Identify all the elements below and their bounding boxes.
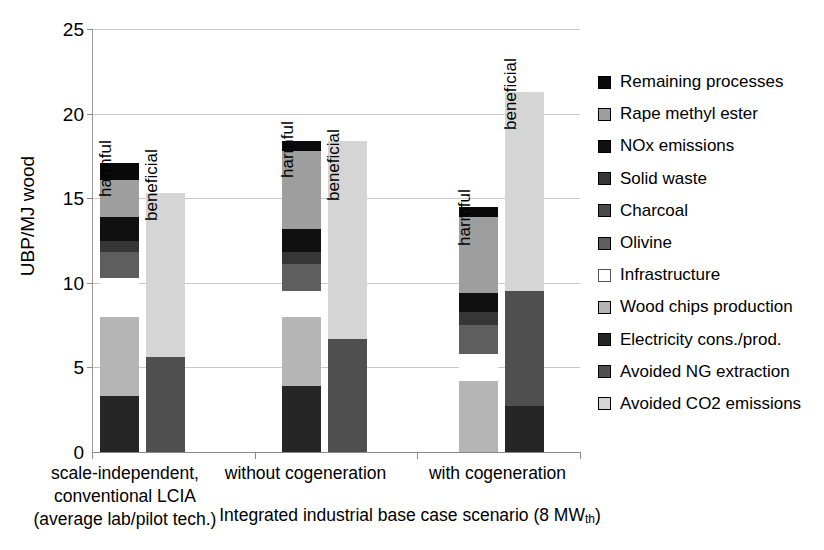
- segment-electricity-cons-prod[interactable]: [505, 406, 544, 452]
- category-label-group3-line1: with cogeneration: [410, 462, 585, 485]
- legend-swatch-icon: [598, 140, 611, 153]
- legend-swatch-icon: [598, 76, 611, 89]
- legend-item-avoided-co2-emissions[interactable]: Avoided CO2 emissions: [598, 388, 824, 420]
- legend-swatch-icon: [598, 397, 611, 410]
- legend-item-remaining-processes[interactable]: Remaining processes: [598, 66, 824, 98]
- legend-label: Olivine: [620, 233, 672, 253]
- legend-label: Charcoal: [620, 201, 688, 221]
- legend-item-infrastructure[interactable]: Infrastructure: [598, 259, 824, 291]
- chart-container: UBP/MJ wood 25 20 15 10 5 0 h: [0, 0, 824, 550]
- legend-swatch-icon: [598, 269, 611, 282]
- x-axis-title-tail: ): [595, 505, 601, 525]
- segment-olivine[interactable]: [100, 252, 139, 277]
- segment-wood-chips-production[interactable]: [100, 317, 139, 397]
- category-label-group1-line3: (average lab/pilot tech.): [20, 508, 230, 531]
- x-axis-title-subscript: th: [585, 512, 595, 526]
- legend-label: Infrastructure: [620, 265, 720, 285]
- bar-group1-harmful[interactable]: [100, 163, 139, 452]
- legend: Remaining processes Rape methyl ester NO…: [598, 66, 824, 420]
- legend-label: NOx emissions: [620, 136, 734, 156]
- legend-swatch-icon: [598, 333, 611, 346]
- gridline-25: [93, 29, 580, 30]
- bar-annotation-group1-harmful: harmful: [96, 140, 116, 197]
- segment-infrastructure[interactable]: [282, 291, 321, 316]
- legend-item-avoided-ng-extraction[interactable]: Avoided NG extraction: [598, 356, 824, 388]
- legend-swatch-icon: [598, 204, 611, 217]
- legend-swatch-icon: [598, 237, 611, 250]
- segment-nox-emissions[interactable]: [100, 217, 139, 241]
- segment-wood-chips-production[interactable]: [282, 317, 321, 386]
- x-axis-line: [92, 452, 580, 453]
- bar-annotation-group3-beneficial: beneficial: [501, 58, 521, 130]
- y-tick-label-25: 25: [38, 20, 84, 39]
- y-tick-label-0: 0: [38, 443, 84, 462]
- segment-electricity-cons-prod[interactable]: [100, 396, 139, 452]
- segment-avoided-ng-extraction[interactable]: [505, 291, 544, 406]
- segment-avoided-ng-extraction[interactable]: [146, 357, 185, 452]
- y-tick-label-20: 20: [38, 105, 84, 124]
- segment-electricity-cons-prod[interactable]: [282, 386, 321, 452]
- segment-olivine[interactable]: [282, 264, 321, 291]
- legend-item-rape-methyl-ester[interactable]: Rape methyl ester: [598, 98, 824, 130]
- legend-item-wood-chips-production[interactable]: Wood chips production: [598, 291, 824, 323]
- plot-area: harmful beneficial harmful beneficial: [93, 29, 580, 452]
- x-tick-2: [417, 452, 418, 459]
- legend-swatch-icon: [598, 172, 611, 185]
- segment-solid-waste[interactable]: [459, 312, 498, 326]
- bar-group1-beneficial[interactable]: [146, 193, 185, 452]
- bar-annotation-group3-harmful: harmful: [455, 189, 475, 246]
- bar-annotation-group1-beneficial: beneficial: [142, 149, 162, 221]
- category-label-group3: with cogeneration: [410, 462, 585, 485]
- segment-solid-waste[interactable]: [100, 241, 139, 253]
- category-label-group1: scale-independent, conventional LCIA (av…: [20, 462, 230, 531]
- category-label-group2: without cogeneration: [218, 462, 393, 485]
- bar-group2-harmful[interactable]: [282, 141, 321, 452]
- x-tick-3: [580, 452, 581, 459]
- legend-item-nox-emissions[interactable]: NOx emissions: [598, 130, 824, 162]
- legend-swatch-icon: [598, 108, 611, 121]
- y-tick-label-10: 10: [38, 274, 84, 293]
- legend-swatch-icon: [598, 301, 611, 314]
- x-tick-1: [255, 452, 256, 459]
- legend-label: Avoided CO2 emissions: [620, 394, 801, 414]
- legend-swatch-icon: [598, 365, 611, 378]
- segment-infrastructure[interactable]: [459, 354, 498, 381]
- legend-item-electricity-cons-prod[interactable]: Electricity cons./prod.: [598, 324, 824, 356]
- segment-solid-waste[interactable]: [282, 252, 321, 264]
- bar-group3-beneficial[interactable]: [505, 92, 544, 452]
- y-axis-title: UBP/MJ wood: [17, 106, 39, 326]
- x-axis-title: Integrated industrial base case scenario…: [200, 505, 620, 526]
- category-label-group1-line2: conventional LCIA: [20, 485, 230, 508]
- segment-nox-emissions[interactable]: [282, 229, 321, 253]
- legend-label: Wood chips production: [620, 297, 793, 317]
- y-tick-label-15: 15: [38, 189, 84, 208]
- segment-avoided-ng-extraction[interactable]: [328, 339, 367, 452]
- segment-nox-emissions[interactable]: [459, 293, 498, 312]
- x-axis-title-main: Integrated industrial base case scenario…: [219, 505, 585, 525]
- category-label-group1-line1: scale-independent,: [20, 462, 230, 485]
- segment-infrastructure[interactable]: [100, 278, 139, 317]
- segment-wood-chips-production[interactable]: [459, 381, 498, 452]
- legend-label: Avoided NG extraction: [620, 362, 790, 382]
- legend-item-solid-waste[interactable]: Solid waste: [598, 163, 824, 195]
- legend-item-charcoal[interactable]: Charcoal: [598, 195, 824, 227]
- segment-olivine[interactable]: [459, 325, 498, 354]
- legend-label: Rape methyl ester: [620, 104, 758, 124]
- legend-label: Solid waste: [620, 169, 707, 189]
- legend-label: Electricity cons./prod.: [620, 330, 782, 350]
- bar-annotation-group2-beneficial: beneficial: [324, 129, 344, 201]
- category-label-group2-line1: without cogeneration: [218, 462, 393, 485]
- x-tick-0: [92, 452, 93, 459]
- y-tick-label-5: 5: [38, 358, 84, 377]
- legend-item-olivine[interactable]: Olivine: [598, 227, 824, 259]
- legend-label: Remaining processes: [620, 72, 783, 92]
- bar-annotation-group2-harmful: harmful: [278, 121, 298, 178]
